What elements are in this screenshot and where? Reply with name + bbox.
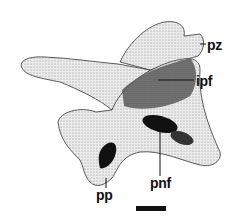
- label-pnf: pnf: [150, 176, 171, 190]
- label-ipf: ipf: [196, 74, 212, 88]
- label-pp: pp: [96, 188, 113, 202]
- scale-bar: [136, 206, 166, 211]
- label-pz: pz: [207, 38, 222, 52]
- vertebra-illustration: [0, 0, 236, 224]
